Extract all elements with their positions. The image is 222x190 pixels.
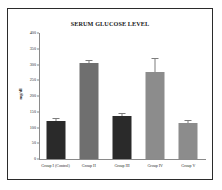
x-axis-tick-label: Group III bbox=[114, 164, 129, 168]
x-axis-tick-label: Group I (Control) bbox=[41, 164, 69, 168]
x-axis-line bbox=[39, 159, 206, 160]
bar[interactable] bbox=[46, 121, 65, 159]
bar-group[interactable] bbox=[105, 33, 138, 159]
error-bar-cap bbox=[118, 113, 125, 114]
error-bar-line bbox=[55, 119, 56, 120]
bar[interactable] bbox=[79, 63, 98, 159]
x-axis-tick-label: Group IV bbox=[147, 164, 162, 168]
bar-group[interactable] bbox=[172, 33, 205, 159]
error-bar-line bbox=[121, 114, 122, 116]
bar[interactable] bbox=[179, 123, 198, 159]
bar-group[interactable] bbox=[39, 33, 72, 159]
error-bar-cap bbox=[52, 118, 59, 119]
bar-group[interactable] bbox=[72, 33, 105, 159]
bar[interactable] bbox=[146, 72, 165, 159]
error-bar-line bbox=[155, 59, 156, 72]
y-axis-label: mg/dl bbox=[18, 88, 23, 99]
bar-group[interactable] bbox=[139, 33, 172, 159]
error-bar-cap bbox=[85, 60, 92, 61]
chart-title: SERUM GLUCOSE LEVEL bbox=[8, 20, 212, 27]
x-axis-tick-label: Group II bbox=[82, 164, 96, 168]
error-bar-cap bbox=[152, 58, 159, 59]
chart-figure-frame: SERUM GLUCOSE LEVEL mg/dl 05010015020025… bbox=[7, 8, 213, 180]
error-bar-line bbox=[188, 121, 189, 123]
bar[interactable] bbox=[112, 116, 131, 159]
x-axis-tick-label: Group V bbox=[181, 164, 195, 168]
error-bar-line bbox=[88, 61, 89, 63]
error-bar-cap bbox=[185, 120, 192, 121]
plot-area: 050100150200250300350400 bbox=[39, 33, 205, 159]
